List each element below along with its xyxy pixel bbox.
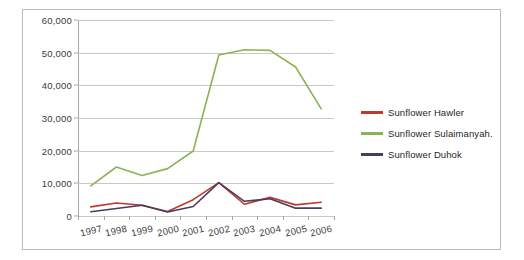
x-axis: 1997199819992000200120022003200420052006 [78, 216, 334, 252]
legend-item-sunflower-sulaimanyah[interactable]: Sunflower Sulaimanyah. [361, 123, 496, 144]
legend-label-sunflower-hawler: Sunflower Hawler [388, 107, 464, 118]
y-tick-label: 10,000 [42, 178, 72, 189]
series-lines [78, 20, 334, 216]
x-tick-mark [334, 216, 335, 220]
chart-legend: Sunflower HawlerSunflower Sulaimanyah.Su… [361, 102, 496, 165]
series-line-sunflower-sulaimanyah [91, 50, 321, 186]
legend-label-sunflower-sulaimanyah: Sunflower Sulaimanyah. [388, 128, 493, 139]
x-tick-mark [206, 216, 207, 220]
x-tick-mark [104, 216, 105, 220]
x-tick-label-1998: 1998 [104, 223, 128, 239]
x-tick-mark [232, 216, 233, 220]
x-tick-label-2001: 2001 [181, 223, 205, 239]
legend-swatch-sunflower-sulaimanyah [361, 132, 383, 135]
x-tick-mark [180, 216, 181, 220]
x-tick-label-2000: 2000 [156, 223, 180, 239]
x-tick-mark [308, 216, 309, 220]
x-tick-label-2002: 2002 [207, 223, 231, 239]
x-tick-label-2005: 2005 [284, 223, 308, 239]
x-tick-label-1997: 1997 [79, 223, 103, 239]
legend-swatch-sunflower-hawler [361, 111, 383, 114]
series-line-sunflower-duhok [91, 183, 321, 212]
x-tick-mark [129, 216, 130, 220]
legend-label-sunflower-duhok: Sunflower Duhok [388, 149, 462, 160]
x-tick-mark [283, 216, 284, 220]
legend-item-sunflower-hawler[interactable]: Sunflower Hawler [361, 102, 496, 123]
x-tick-mark [155, 216, 156, 220]
y-tick-label: 20,000 [42, 145, 72, 156]
x-tick-label-2003: 2003 [232, 223, 256, 239]
legend-swatch-sunflower-duhok [361, 153, 383, 156]
x-tick-mark [78, 216, 79, 220]
chart-frame: 010,00020,00030,00040,00050,00060,000 19… [22, 9, 501, 250]
y-tick-label: 0 [67, 211, 72, 222]
y-tick-label: 30,000 [42, 113, 72, 124]
x-tick-label-2004: 2004 [258, 223, 282, 239]
y-tick-label: 40,000 [42, 80, 72, 91]
y-tick-label: 60,000 [42, 15, 72, 26]
legend-item-sunflower-duhok[interactable]: Sunflower Duhok [361, 144, 496, 165]
x-tick-label-2006: 2006 [309, 223, 333, 239]
x-tick-mark [257, 216, 258, 220]
y-tick-label: 50,000 [42, 47, 72, 58]
plot-area: 010,00020,00030,00040,00050,00060,000 [78, 20, 334, 216]
x-tick-label-1999: 1999 [130, 223, 154, 239]
